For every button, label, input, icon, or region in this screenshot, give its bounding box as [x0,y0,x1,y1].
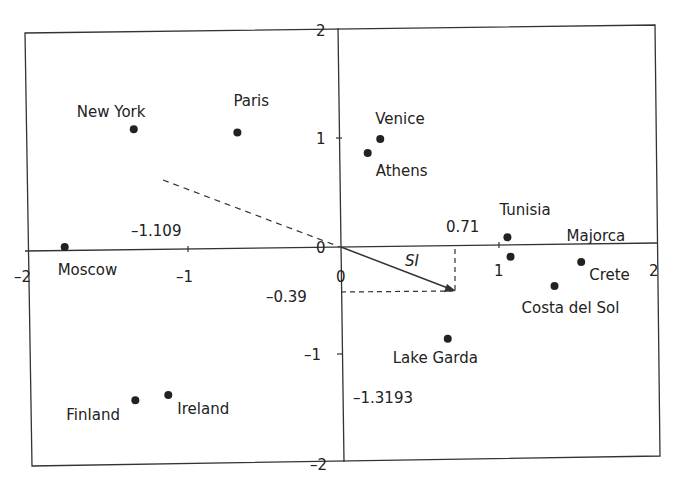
y-tick-label: 2 [316,22,326,40]
data-point [233,129,241,137]
annotation-y-value: –0.39 [266,288,307,306]
y-tick-label: 0 [316,239,326,257]
y-tick-label: 1 [316,130,326,148]
x-tick-label: –1 [176,268,193,286]
x-tick-label: 2 [649,262,659,280]
y-axis [338,28,344,462]
data-point [61,243,69,251]
y-tick-label: –2 [310,456,327,474]
data-point [444,335,452,343]
point-label: Crete [589,266,630,284]
data-point [503,233,511,241]
annotation-x-value: 0.71 [446,218,479,236]
scatter-plot: –2–1012210–1–2 New YorkParisVeniceAthens… [0,0,677,490]
point-label: Lake Garda [393,349,478,367]
point-label: Costa del Sol [522,299,620,317]
data-point [164,391,172,399]
data-point [507,253,515,261]
x-tick-label: 0 [336,268,346,286]
point-label: Majorca [567,227,626,245]
data-point [551,282,559,290]
data-point [364,149,372,157]
point-label: Athens [376,162,428,180]
point-label: Tunisia [498,201,550,219]
vector-label: SI [405,252,420,270]
point-label: New York [77,103,146,121]
data-point [130,125,138,133]
point-label: Venice [375,110,424,128]
annotation-value: –1.3193 [353,389,413,407]
data-point [577,258,585,266]
x-tick-label: 1 [494,262,504,280]
point-label: Moscow [58,261,118,279]
point-label: Paris [233,92,269,110]
x-tick-label: –2 [14,268,31,286]
point-label: Ireland [177,400,229,418]
data-point [131,396,139,404]
point-label: Finland [66,406,120,424]
annotation-value: –1.109 [131,222,181,240]
si-vector [341,247,453,290]
dashed-direction-line [163,180,340,247]
data-point [376,135,384,143]
projection-y [341,291,453,292]
y-tick-label: –1 [304,346,321,364]
